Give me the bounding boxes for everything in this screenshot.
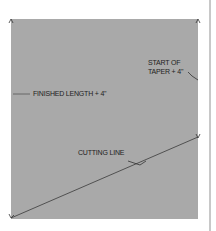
finished-length-label: FINISHED LENGTH + 4" (33, 90, 106, 98)
start-of-taper-label-line1: START OF (148, 59, 180, 67)
cutting-line-label: CUTTING LINE (78, 149, 124, 157)
start-of-taper-leader (188, 72, 198, 80)
diagram-lines (0, 0, 216, 231)
arrow-top-right-icon (196, 19, 200, 23)
arrow-top-left-icon (9, 19, 13, 23)
start-of-taper-label-line2: TAPER + 4" (148, 68, 183, 76)
